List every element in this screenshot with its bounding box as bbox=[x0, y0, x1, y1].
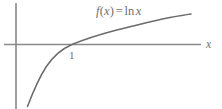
x-axis-label: x bbox=[206, 39, 211, 51]
equals-sign: = bbox=[114, 4, 124, 18]
x-intercept-tick-label: 1 bbox=[69, 50, 75, 61]
ln-function-graph-figure: f(x)=ln x x 1 bbox=[0, 0, 222, 109]
function-equation-label: f(x)=ln x bbox=[96, 5, 142, 18]
natural-log-operator: ln bbox=[124, 4, 134, 18]
ln-curve bbox=[28, 14, 192, 107]
log-argument: x bbox=[136, 4, 142, 18]
